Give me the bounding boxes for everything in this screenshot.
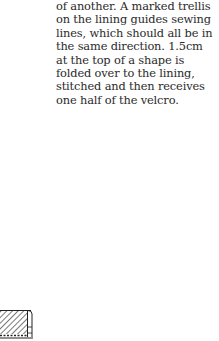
body-paragraph: of another. A marked trellis on the lini… xyxy=(56,0,219,107)
paragraph-line: on the lining guides sewing xyxy=(56,13,219,26)
hatched-fabric-diagram-icon xyxy=(0,300,36,341)
paragraph-line: folded over to the lining, xyxy=(56,67,219,80)
paragraph-line: at the top of a shape is xyxy=(56,54,219,67)
paragraph-line: of another. A marked trellis xyxy=(56,0,219,13)
paragraph-line: one half of the velcro. xyxy=(56,94,219,107)
paragraph-line: lines, which should all be in xyxy=(56,27,219,40)
paragraph-line: stitched and then receives xyxy=(56,80,219,93)
paragraph-line: the same direction. 1.5cm xyxy=(56,40,219,53)
